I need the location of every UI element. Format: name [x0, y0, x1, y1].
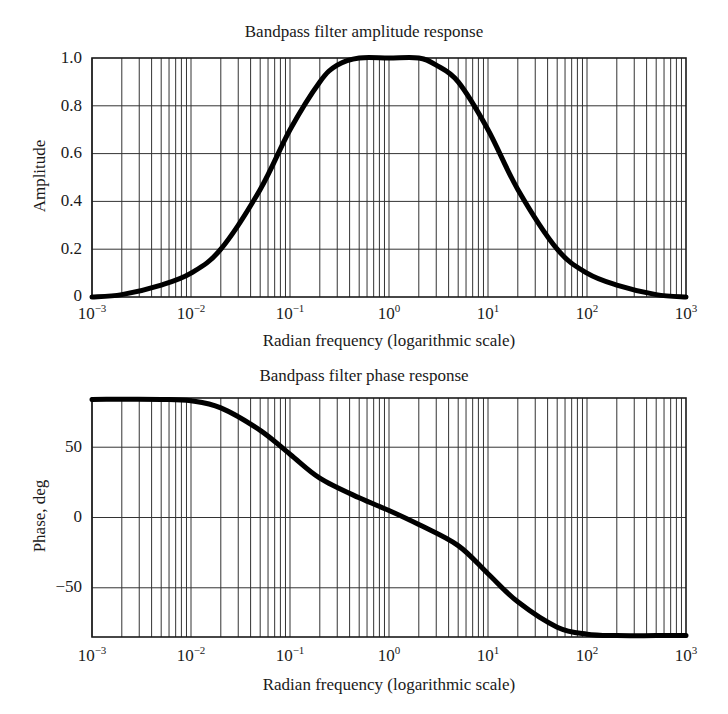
- bandpass-filter-figure: Bandpass filter amplitude response Ampli…: [0, 0, 728, 714]
- phase-plot-area: [0, 0, 728, 714]
